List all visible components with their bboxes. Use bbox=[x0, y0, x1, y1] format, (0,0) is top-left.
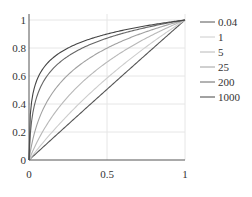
legend-label: 25 bbox=[218, 61, 230, 73]
legend-label: 5 bbox=[218, 46, 224, 58]
legend-label: 200 bbox=[218, 76, 235, 88]
x-tick-label: 0 bbox=[26, 168, 32, 180]
x-tick-labels: 0 0.5 1 bbox=[26, 168, 188, 180]
y-tick-label: 0 bbox=[21, 154, 27, 166]
y-tick-label: 0.4 bbox=[12, 98, 26, 110]
y-tick-label: 1 bbox=[21, 14, 27, 26]
legend-label: 1000 bbox=[218, 91, 241, 103]
y-tick-label: 0.8 bbox=[12, 42, 26, 54]
y-tick-labels: 1 0.8 0.6 0.4 0.2 0 bbox=[12, 14, 26, 166]
y-tick-label: 0.6 bbox=[12, 70, 26, 82]
y-tick-label: 0.2 bbox=[12, 126, 26, 138]
chart: 1 0.8 0.6 0.4 0.2 0 0 0.5 1 0.04 1 5 25 … bbox=[0, 0, 252, 197]
legend-label: 0.04 bbox=[218, 16, 238, 28]
legend-label: 1 bbox=[218, 31, 224, 43]
legend: 0.04 1 5 25 200 1000 bbox=[200, 16, 241, 103]
x-tick-label: 0.5 bbox=[100, 168, 114, 180]
x-tick-label: 1 bbox=[182, 168, 188, 180]
